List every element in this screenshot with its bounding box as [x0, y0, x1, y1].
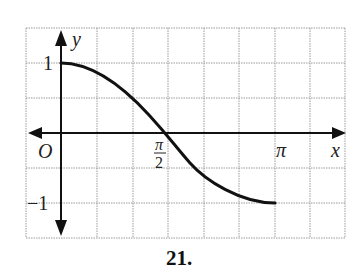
x-tick-pi-label: π: [276, 139, 287, 161]
x-axis-label: x: [330, 139, 340, 161]
x-tick-pi-half-label: π 2: [154, 136, 166, 171]
y-axis-label: y: [70, 28, 81, 51]
axes: [28, 30, 346, 236]
x-axis-right-arrow-icon: [332, 127, 346, 139]
svg-text:2: 2: [155, 154, 163, 171]
y-axis-down-arrow-icon: [55, 220, 67, 236]
y-axis-up-arrow-icon: [55, 30, 67, 46]
origin-label: O: [38, 140, 52, 162]
y-tick-1-label: 1: [43, 52, 53, 74]
x-axis-left-arrow-icon: [28, 127, 42, 139]
svg-text:π: π: [155, 136, 164, 153]
cosine-graph: y x O 1 −1 π 2 π: [0, 0, 358, 275]
y-tick-neg1-label: −1: [27, 192, 48, 214]
figure-caption: 21.: [0, 246, 358, 271]
